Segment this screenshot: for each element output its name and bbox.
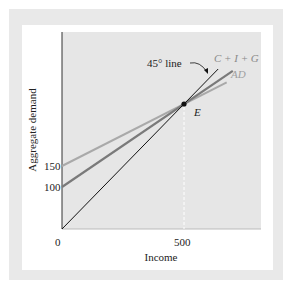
x-tick-0: 0 — [55, 236, 61, 248]
equilibrium-point — [181, 101, 186, 106]
y-tick-150: 150 — [44, 160, 61, 172]
label-45-line: 45° line — [147, 57, 182, 69]
label-e: E — [193, 106, 201, 118]
chart: E 45° line C + I + G AD 150 100 0 500 In… — [0, 0, 288, 283]
x-tick-500: 500 — [174, 236, 191, 248]
y-axis-label: Aggregate demand — [26, 88, 38, 172]
y-tick-100: 100 — [44, 181, 61, 193]
x-axis-label: Income — [145, 251, 178, 263]
label-cig: C + I + G — [214, 52, 259, 64]
label-ad: AD — [230, 68, 246, 80]
